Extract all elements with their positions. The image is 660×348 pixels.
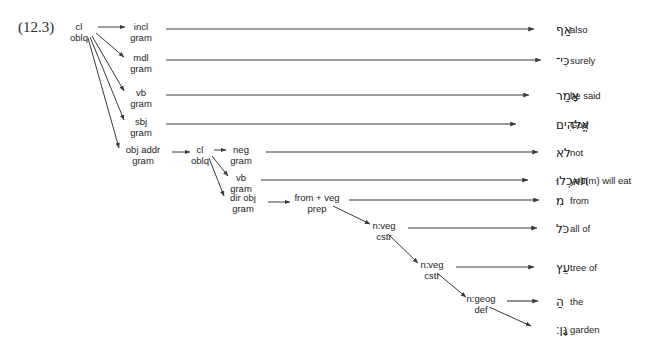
english-gloss: garden <box>570 324 600 335</box>
english-gloss: not <box>570 147 584 158</box>
tree-node-vb1: vbgram <box>130 87 152 109</box>
tree-node-vb2: vbgram <box>230 172 252 194</box>
node-label-top: n:veg <box>420 259 443 270</box>
english-gloss: also <box>570 24 587 35</box>
tree-edge-prep-to-nveg1 <box>333 206 370 224</box>
english-gloss: the <box>570 296 583 307</box>
node-label-bottom: prep <box>307 203 326 214</box>
tree-edge-root-to-sbj <box>90 37 124 120</box>
tree-node-neg: neggram <box>230 144 252 166</box>
leaf-leaf-ki: כִּי־surely <box>556 54 596 68</box>
node-label-top: n:geog <box>466 293 495 304</box>
hebrew-word: עֵץ <box>556 261 570 275</box>
tree-node-incl: inclgram <box>130 21 152 43</box>
tree-node-ngeog: n:geogdef <box>466 293 495 315</box>
hebrew-word: הַ <box>556 295 564 309</box>
nodes-layer: cloblqinclgrammdlgramvbgramsbjgramobj ad… <box>70 21 496 315</box>
english-gloss: you(m) will eat <box>570 175 632 186</box>
node-label-top: cl <box>197 144 204 155</box>
node-label-bottom: gram <box>130 63 152 74</box>
leaf-leaf-tokelu: תֹאכְלוּyou(m) will eat <box>555 174 631 188</box>
node-label-bottom: gram <box>130 32 152 43</box>
node-label-bottom: gram <box>132 155 154 166</box>
tree-node-prep: from + vegprep <box>294 192 339 214</box>
tree-edge-root-to-vb1 <box>92 36 124 91</box>
english-gloss: all of <box>570 223 590 234</box>
node-label-bottom: cstr <box>376 231 391 242</box>
node-label-top: obj addr <box>126 144 160 155</box>
tree-node-dirobj: dir objgram <box>230 192 256 214</box>
leaf-leaf-amar: אָמַרhe said <box>556 89 601 103</box>
english-gloss: tree of <box>570 262 597 273</box>
tree-edge-root-to-mdl <box>96 33 124 57</box>
node-label-bottom: gram <box>130 127 152 138</box>
node-label-bottom: gram <box>130 98 152 109</box>
node-label-top: n:veg <box>372 220 395 231</box>
node-label-top: neg <box>233 144 249 155</box>
tree-edge-cl2-to-dirobj <box>209 158 224 196</box>
english-gloss: God <box>570 119 588 130</box>
tree-node-sbj: sbjgram <box>130 116 152 138</box>
hebrew-word: כֹּל <box>556 222 569 236</box>
leaf-leaf-elohim: אֱלֹהִיםGod <box>556 118 589 132</box>
tree-node-cl2: cloblq <box>191 144 209 166</box>
node-label-top: from + veg <box>294 192 339 203</box>
leaf-leaf-mi: מִfrom <box>556 194 589 208</box>
node-label-bottom: def <box>474 304 488 315</box>
leaf-leaf-lo: לֹאnot <box>556 146 584 160</box>
tree-node-nveg2: n:vegcstr <box>420 259 443 281</box>
node-label-bottom: oblq <box>191 155 209 166</box>
leaf-lines-layer <box>166 29 541 301</box>
tree-node-objaddr: obj addrgram <box>126 144 160 166</box>
tree-diagram-canvas: cloblqinclgrammdlgramvbgramsbjgramobj ad… <box>0 0 660 348</box>
node-label-top: incl <box>134 21 148 32</box>
node-label-top: cl <box>76 21 83 32</box>
tree-edge-ngeog-to-gan <box>489 307 531 326</box>
node-label-top: vb <box>236 172 246 183</box>
tree-node-root: cloblq <box>70 21 88 43</box>
node-label-top: vb <box>136 87 146 98</box>
leaf-leaf-ets: עֵץtree of <box>556 261 597 275</box>
edges-layer <box>88 27 531 326</box>
english-gloss: he said <box>570 90 601 101</box>
tree-edge-nveg2-to-ngeog <box>437 273 466 297</box>
hebrew-word: לֹא <box>556 146 571 160</box>
node-label-top: sbj <box>135 116 147 127</box>
hebrew-word: כִּי־ <box>556 54 569 68</box>
example-number-label: (12.3) <box>18 19 54 36</box>
tree-edge-nveg1-to-nveg2 <box>388 234 418 263</box>
english-gloss: surely <box>570 55 596 66</box>
tree-node-nveg1: n:vegcstr <box>372 220 395 242</box>
node-label-bottom: cstr <box>424 270 439 281</box>
node-label-top: mdl <box>133 52 148 63</box>
node-label-bottom: oblq <box>70 32 88 43</box>
tree-diagram-figure: cloblqinclgrammdlgramvbgramsbjgramobj ad… <box>0 0 660 348</box>
leaves-layer: אַףalsoכִּי־surelyאָמַרhe saidאֱלֹהִיםGo… <box>555 23 631 337</box>
node-label-bottom: gram <box>230 155 252 166</box>
leaf-leaf-gan: גָּן׃garden <box>556 323 600 337</box>
node-label-top: dir obj <box>230 192 256 203</box>
leaf-leaf-kol: כֹּלall of <box>556 222 590 236</box>
leaf-leaf-ha: הַthe <box>556 295 583 309</box>
hebrew-word: מִ <box>556 194 564 208</box>
leaf-leaf-af: אַףalso <box>556 23 587 37</box>
english-gloss: from <box>570 195 589 206</box>
tree-node-mdl: mdlgram <box>130 52 152 74</box>
node-label-bottom: gram <box>232 203 254 214</box>
hebrew-word: גָּן׃ <box>556 323 568 337</box>
tree-edge-root-to-objaddr <box>88 38 119 148</box>
